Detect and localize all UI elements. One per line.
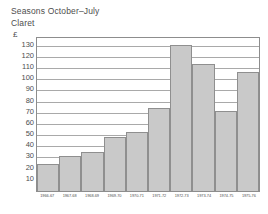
y-tick-label: 90 <box>8 85 34 93</box>
y-tick-label: 120 <box>8 52 34 60</box>
x-tick-label: 1967-68 <box>58 193 80 205</box>
bars-container <box>37 38 259 191</box>
x-tick-label: 1970-71 <box>126 193 148 205</box>
bar <box>170 45 192 191</box>
plot-area <box>36 37 260 192</box>
x-tick-label: 1974-75 <box>215 193 237 205</box>
x-tick-label: 1973-74 <box>193 193 215 205</box>
y-tick-label: 30 <box>8 152 34 160</box>
bar <box>148 108 170 191</box>
x-tick-label: 1975-76 <box>238 193 260 205</box>
chart-subtitle: Claret <box>11 17 100 29</box>
chart-title-block: Seasons October–July Claret <box>11 5 100 29</box>
y-tick-label: 20 <box>8 164 34 172</box>
bar <box>59 156 81 191</box>
y-tick-label: 10 <box>8 175 34 183</box>
chart-title: Seasons October–July <box>11 5 100 17</box>
y-tick-label: 40 <box>8 141 34 149</box>
bar <box>81 152 103 191</box>
bar-chart: Seasons October–July Claret £ 1020304050… <box>0 0 268 214</box>
x-tick-label: 1969-70 <box>103 193 125 205</box>
y-axis: 102030405060708090100110120130 <box>4 37 34 192</box>
bar <box>104 137 126 191</box>
y-tick-label: 70 <box>8 108 34 116</box>
y-tick-label: 110 <box>8 63 34 71</box>
y-tick-label: 80 <box>8 97 34 105</box>
bar <box>237 72 259 191</box>
x-tick-label: 1971-72 <box>148 193 170 205</box>
y-tick-label: 130 <box>8 41 34 49</box>
x-tick-label: 1972-73 <box>170 193 192 205</box>
x-axis: 1966-671967-681968-691969-701970-711971-… <box>36 193 260 205</box>
x-tick-label: 1968-69 <box>81 193 103 205</box>
bar <box>192 64 214 191</box>
bar <box>37 164 59 191</box>
y-tick-label: 60 <box>8 119 34 127</box>
bar <box>126 132 148 191</box>
y-tick-label: 100 <box>8 74 34 82</box>
bar <box>215 111 237 191</box>
y-tick-label: 50 <box>8 130 34 138</box>
x-tick-label: 1966-67 <box>36 193 58 205</box>
